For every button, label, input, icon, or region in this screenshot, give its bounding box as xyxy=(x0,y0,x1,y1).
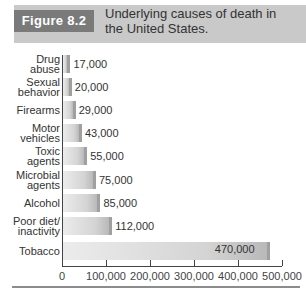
figure-tag: Figure 8.2 xyxy=(14,10,94,32)
bar-row: Firearms29,000 xyxy=(0,99,306,121)
value-label: 20,000 xyxy=(75,76,109,98)
x-tick-label: 100,000 xyxy=(86,270,126,282)
category-label: Drug abuse xyxy=(30,53,60,75)
x-tick xyxy=(194,260,195,266)
value-label: 85,000 xyxy=(103,192,137,214)
x-tick-label: 300,000 xyxy=(174,270,214,282)
value-label: 470,000 xyxy=(215,238,255,260)
bar xyxy=(63,147,87,165)
x-tick xyxy=(150,260,151,266)
value-label: 29,000 xyxy=(79,99,113,121)
bar xyxy=(63,194,100,212)
category-label: Poor diet/ inactivity xyxy=(13,215,60,237)
category-label: Alcohol xyxy=(24,192,60,214)
x-tick-label: 200,000 xyxy=(130,270,170,282)
bar-row: Alcohol85,000 xyxy=(0,192,306,214)
bar-row: Drug abuse17,000 xyxy=(0,53,306,75)
value-label: 17,000 xyxy=(73,53,107,75)
figure-caption: Underlying causes of death in the United… xyxy=(105,6,295,36)
bar xyxy=(63,78,72,96)
bar-row: Tobacco470,000 xyxy=(0,240,306,262)
bar-row: Sexual behavior20,000 xyxy=(0,76,306,98)
bar xyxy=(63,124,82,142)
x-axis xyxy=(62,266,282,267)
value-label: 43,000 xyxy=(85,122,119,144)
x-tick xyxy=(106,260,107,266)
bar-row: Motor vehicles43,000 xyxy=(0,122,306,144)
value-label: 112,000 xyxy=(115,215,154,237)
x-tick-label: 400,000 xyxy=(218,270,258,282)
category-label: Microbial agents xyxy=(16,169,60,191)
category-label: Sexual behavior xyxy=(18,76,60,98)
x-tick xyxy=(282,260,283,266)
x-tick xyxy=(238,260,239,266)
bar xyxy=(63,55,70,73)
bar-chart: Drug abuse17,000Sexual behavior20,000Fir… xyxy=(0,50,306,280)
category-label: Motor vehicles xyxy=(20,122,60,144)
bar xyxy=(63,217,112,235)
value-label: 55,000 xyxy=(90,145,124,167)
category-label: Toxic agents xyxy=(27,145,60,167)
category-label: Tobacco xyxy=(19,240,60,262)
bar xyxy=(63,101,76,119)
bar-row: Toxic agents55,000 xyxy=(0,145,306,167)
x-tick-label: 500,000 xyxy=(262,270,302,282)
bar-row: Microbial agents75,000 xyxy=(0,169,306,191)
x-tick-label: 0 xyxy=(59,270,65,282)
category-label: Firearms xyxy=(17,99,60,121)
bar xyxy=(63,171,96,189)
value-label: 75,000 xyxy=(99,169,133,191)
bottom-rule xyxy=(12,286,300,288)
bar-row: Poor diet/ inactivity112,000 xyxy=(0,215,306,237)
